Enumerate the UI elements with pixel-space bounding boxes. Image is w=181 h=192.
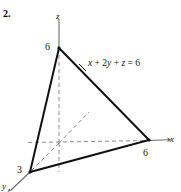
equation-plus-2: + <box>111 58 121 68</box>
y-axis-dashed-positive <box>59 112 89 143</box>
y-axis-arrowhead-icon <box>8 188 12 192</box>
plane-intercept-diagram <box>0 0 181 192</box>
x-axis-dashed <box>28 141 149 143</box>
z-intercept-label: 6 <box>45 42 50 52</box>
y-intercept-label: 3 <box>17 165 22 175</box>
problem-number: 2. <box>3 8 11 19</box>
equation-plus-1: + <box>92 58 102 68</box>
y-axis-label: y <box>2 182 6 191</box>
equation-equals-sign: = <box>125 58 135 68</box>
equation-term-2y: 2y <box>102 58 111 68</box>
equation-rhs: 6 <box>135 58 140 68</box>
plane-equation-label: x + 2y + z = 6 <box>88 58 140 69</box>
z-axis-label: z <box>56 12 60 21</box>
x-intercept-label: 6 <box>143 148 148 158</box>
x-axis-solid <box>149 140 167 141</box>
z-intercept-point <box>57 46 60 49</box>
x-axis-label: x <box>170 135 174 144</box>
x-intercept-point <box>147 138 150 141</box>
y-intercept-point <box>28 170 31 173</box>
